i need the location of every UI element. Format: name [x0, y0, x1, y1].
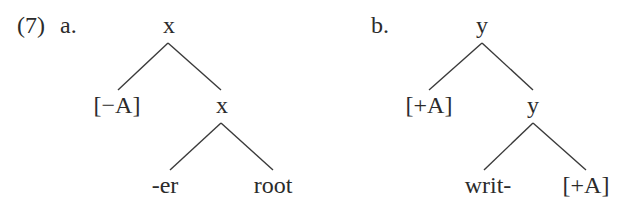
tree-a-edge-root-right [168, 43, 221, 90]
tree-a-edge-mid-left [170, 123, 221, 170]
tree-edges [0, 0, 626, 212]
tree-b-edge-root-left [429, 43, 482, 90]
tree-b-edge-mid-left [484, 123, 533, 170]
tree-b-edge-mid-right [533, 123, 586, 170]
tree-a-edge-root-left [118, 43, 168, 90]
tree-a-edge-mid-right [221, 123, 273, 170]
tree-b-edge-root-right [482, 43, 533, 90]
